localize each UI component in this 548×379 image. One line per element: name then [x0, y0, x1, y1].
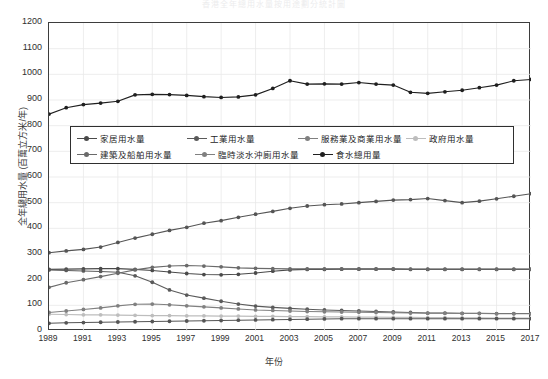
y-tick-1000: 1000: [2, 67, 42, 77]
x-tick-2017: 2017: [510, 333, 548, 343]
legend-marker-icon: [298, 133, 318, 143]
y-axis-label: 全年總用水量 (百萬立方米/年): [16, 57, 29, 277]
legend-marker-icon: [77, 133, 97, 143]
legend-label: 政府用水量: [429, 132, 474, 144]
legend-label: 食水總用量: [336, 148, 381, 160]
legend-item-1-1[interactable]: 臨時淡水沖廁用水量: [195, 146, 313, 162]
legend-marker-icon: [77, 149, 97, 159]
legend-row-0: 家居用水量工業用水量服務業及商業用水量政府用水量: [77, 130, 509, 146]
x-axis-label: 年份: [0, 355, 548, 368]
y-tick-800: 800: [2, 119, 42, 129]
legend-label: 服務業及商業用水量: [321, 132, 402, 144]
gridlines: [49, 23, 531, 331]
y-tick-600: 600: [2, 170, 42, 180]
plot-area: [48, 22, 530, 330]
y-tick-100: 100: [2, 298, 42, 308]
y-tick-300: 300: [2, 247, 42, 257]
legend-item-0-0[interactable]: 家居用水量: [77, 130, 187, 146]
legend-label: 建築及船舶用水量: [100, 148, 172, 160]
chart-title: 香港全年總用水量按用途劃分統計圖: [0, 0, 548, 9]
legend-label: 工業用水量: [210, 132, 255, 144]
legend-marker-icon: [195, 149, 215, 159]
y-tick-1100: 1100: [2, 42, 42, 52]
y-tick-200: 200: [2, 273, 42, 283]
y-tick-900: 900: [2, 93, 42, 103]
legend-marker-icon: [313, 149, 333, 159]
legend-item-0-2[interactable]: 服務業及商業用水量: [298, 130, 406, 146]
legend-item-1-2[interactable]: 食水總用量: [313, 146, 423, 162]
y-tick-1200: 1200: [2, 16, 42, 26]
chart-canvas: [49, 23, 531, 331]
y-tick-400: 400: [2, 221, 42, 231]
y-tick-700: 700: [2, 144, 42, 154]
chart-root: 香港全年總用水量按用途劃分統計圖 全年總用水量 (百萬立方米/年) 年份 010…: [0, 0, 548, 379]
legend-item-0-1[interactable]: 工業用水量: [187, 130, 297, 146]
legend-label: 家居用水量: [100, 132, 145, 144]
chart-legend: 家居用水量工業用水量服務業及商業用水量政府用水量建築及船舶用水量臨時淡水沖廁用水…: [70, 126, 514, 164]
legend-item-1-0[interactable]: 建築及船舶用水量: [77, 146, 195, 162]
legend-label: 臨時淡水沖廁用水量: [218, 148, 299, 160]
y-tick-500: 500: [2, 196, 42, 206]
legend-marker-icon: [187, 133, 207, 143]
legend-row-1: 建築及船舶用水量臨時淡水沖廁用水量食水總用量: [77, 146, 509, 162]
legend-item-0-3[interactable]: 政府用水量: [406, 130, 509, 146]
legend-marker-icon: [406, 133, 426, 143]
